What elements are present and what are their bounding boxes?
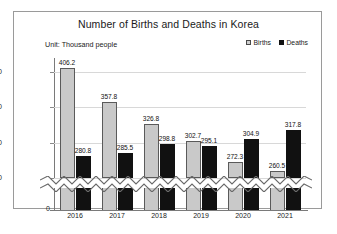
y-axis-line xyxy=(54,58,55,178)
bar-deaths-2017 xyxy=(118,153,133,178)
bar-births-2016 xyxy=(60,68,75,178)
x-tick-label-2016: 2016 xyxy=(54,212,96,219)
x-tick-label-2018: 2018 xyxy=(138,212,180,219)
bar-deaths-2018 xyxy=(160,144,175,178)
value-label-births-2018: 326.8 xyxy=(137,115,166,122)
value-label-births-2017: 357.8 xyxy=(95,93,124,100)
value-label-deaths-2018: 298.8 xyxy=(153,135,182,142)
x-tick-label-2019: 2019 xyxy=(180,212,222,219)
legend-label-deaths: Deaths xyxy=(286,39,308,46)
y-tick-label-350: 350 xyxy=(0,103,2,110)
x-tick-label-2017: 2017 xyxy=(96,212,138,219)
y-tick-label-zero: 0 xyxy=(28,205,50,212)
unit-note: Unit: Thousand people xyxy=(45,40,117,49)
bar-deaths-2021 xyxy=(286,130,301,178)
bar-deaths-2020 xyxy=(244,139,259,178)
legend-label-births: Births xyxy=(254,39,271,46)
bar-births-2017 xyxy=(102,102,117,178)
legend-item-births: Births xyxy=(246,39,271,46)
legend-item-deaths: Deaths xyxy=(279,39,308,46)
gridline-300 xyxy=(54,143,306,144)
bar-births-2019 xyxy=(186,141,201,178)
y-tick-400 xyxy=(50,72,54,73)
chart-legend: Births Deaths xyxy=(246,39,308,46)
y-tick-label-400: 400 xyxy=(0,68,2,75)
chart-title: Number of Births and Deaths in Korea xyxy=(14,18,323,30)
chart-frame: Number of Births and Deaths in Korea Uni… xyxy=(13,11,322,209)
legend-swatch-deaths-icon xyxy=(279,40,284,45)
y-tick-300 xyxy=(50,143,54,144)
bar-births-2018 xyxy=(144,124,159,178)
gridline-400 xyxy=(54,72,306,73)
value-label-deaths-2019: 295.1 xyxy=(195,137,224,144)
y-tick-label-300: 300 xyxy=(0,139,2,146)
value-label-deaths-2017: 285.5 xyxy=(111,144,140,151)
gridline-350 xyxy=(54,107,306,108)
x-tick-label-2021: 2021 xyxy=(264,212,306,219)
bar-deaths-2016 xyxy=(76,156,91,178)
y-tick-label-250: 250 xyxy=(0,174,2,181)
value-label-deaths-2016: 280.8 xyxy=(69,147,98,154)
bar-deaths-2019 xyxy=(202,146,217,178)
x-axis-line xyxy=(50,210,308,211)
value-label-births-2016: 406.2 xyxy=(53,59,82,66)
value-label-deaths-2021: 317.8 xyxy=(279,121,308,128)
x-tick-label-2020: 2020 xyxy=(222,212,264,219)
axis-break-zigzag-icon xyxy=(40,176,312,192)
legend-swatch-births-icon xyxy=(246,40,251,45)
plot-area: 250300350400406.2280.8357.8285.5326.8298… xyxy=(54,58,306,178)
value-label-deaths-2020: 304.9 xyxy=(237,130,266,137)
y-tick-350 xyxy=(50,107,54,108)
